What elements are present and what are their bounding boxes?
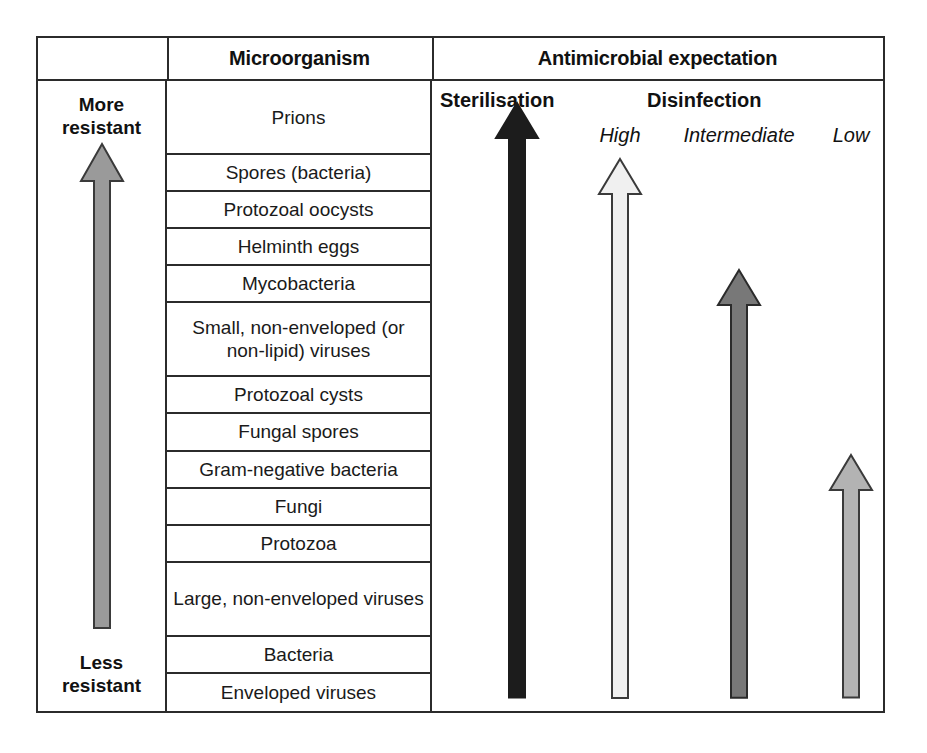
microorganism-label: Fungal spores	[238, 420, 358, 443]
microorganism-label: Spores (bacteria)	[226, 161, 372, 184]
microorganism-label: Gram-negative bacteria	[199, 458, 398, 481]
microorganism-label: Bacteria	[264, 643, 334, 666]
microorganism-label: Prions	[272, 106, 326, 129]
more-resistant-label: More resistant	[38, 93, 165, 139]
microorganism-label: Protozoal cysts	[234, 383, 363, 406]
microorganism-label: Helminth eggs	[238, 235, 359, 258]
arrow-shape	[496, 103, 538, 698]
disinfection-group-label: Disinfection	[647, 89, 761, 112]
microorganism-label: Enveloped viruses	[221, 681, 376, 704]
resistance-arrow-svg	[79, 141, 125, 631]
microorganism-row: Helminth eggs	[167, 229, 430, 266]
microorganism-row: Protozoal oocysts	[167, 192, 430, 229]
level-label-low: Low	[833, 124, 870, 147]
microorganism-row: Spores (bacteria)	[167, 155, 430, 192]
resistance-scale-column: More resistant Less resistant	[38, 81, 167, 711]
intermediate-disinfection-arrow-icon	[716, 268, 762, 700]
resistance-figure: Microorganism Antimicrobial expectation …	[36, 36, 885, 713]
resistance-up-arrow-icon	[79, 141, 125, 631]
microorganism-row: Fungal spores	[167, 414, 430, 451]
less-resistant-line1: Less	[38, 651, 165, 674]
level-label-intermediate: Intermediate	[683, 124, 794, 147]
arrow-shape	[81, 144, 123, 628]
more-resistant-line2: resistant	[38, 116, 165, 139]
header-cell-microorganism: Microorganism	[167, 38, 434, 79]
microorganism-row: Bacteria	[167, 637, 430, 674]
more-resistant-line1: More	[38, 93, 165, 116]
less-resistant-line2: resistant	[38, 674, 165, 697]
microorganism-label: Protozoa	[260, 532, 336, 555]
microorganism-row: Protozoal cysts	[167, 377, 430, 414]
arrow-shape	[830, 455, 872, 698]
header-cell-antimicrobial-expectation: Antimicrobial expectation	[432, 38, 883, 79]
figure-body: More resistant Less resistant PrionsSpor…	[38, 81, 883, 711]
sterilisation-arrow-icon	[494, 101, 540, 700]
high-arrow-svg	[597, 157, 643, 700]
microorganism-label: Fungi	[275, 495, 323, 518]
microorganism-row: Large, non-enveloped viruses	[167, 563, 430, 637]
microorganism-label: Protozoal oocysts	[224, 198, 374, 221]
microorganism-label: Mycobacteria	[242, 272, 355, 295]
antimicrobial-expectation-column: Sterilisation Disinfection High Intermed…	[432, 81, 883, 711]
low-disinfection-arrow-icon	[828, 453, 874, 700]
level-label-high: High	[599, 124, 640, 147]
arrow-shape	[599, 159, 641, 698]
header-cell-blank	[38, 38, 169, 79]
microorganism-row: Fungi	[167, 489, 430, 526]
low-arrow-svg	[828, 453, 874, 700]
microorganism-row: Small, non-enveloped (or non-lipid) viru…	[167, 303, 430, 377]
microorganism-row: Gram-negative bacteria	[167, 452, 430, 489]
arrow-shape	[718, 270, 760, 698]
microorganism-row: Mycobacteria	[167, 266, 430, 303]
intermediate-arrow-svg	[716, 268, 762, 700]
microorganism-row: Prions	[167, 81, 430, 155]
microorganism-column: PrionsSpores (bacteria)Protozoal oocysts…	[167, 81, 432, 711]
microorganism-label: Large, non-enveloped viruses	[173, 587, 423, 610]
sterilisation-arrow-svg	[494, 101, 540, 700]
microorganism-label: Small, non-enveloped (or non-lipid) viru…	[173, 316, 424, 362]
less-resistant-label: Less resistant	[38, 651, 165, 697]
microorganism-row: Protozoa	[167, 526, 430, 563]
table-header-row: Microorganism Antimicrobial expectation	[38, 38, 883, 81]
high-disinfection-arrow-icon	[597, 157, 643, 700]
microorganism-row: Enveloped viruses	[167, 674, 430, 711]
